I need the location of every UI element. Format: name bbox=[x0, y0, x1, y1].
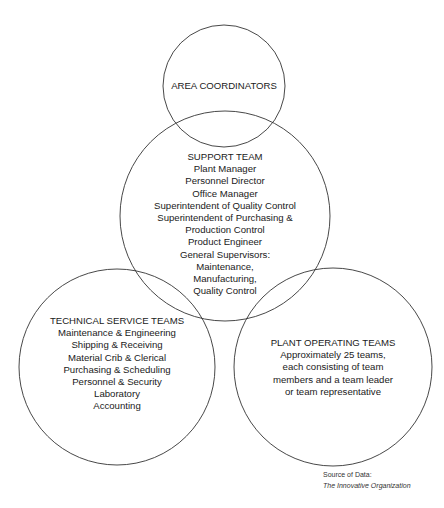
technical-service-item: Maintenance & Engineering bbox=[37, 327, 197, 339]
area-coordinators-text: AREA COORDINATORS bbox=[164, 80, 284, 92]
support-team-item: Manufacturing, bbox=[125, 273, 325, 285]
support-team-title: SUPPORT TEAM bbox=[125, 151, 325, 163]
area-coordinators-title: AREA COORDINATORS bbox=[164, 80, 284, 92]
support-team-item: Superintendent of Quality Control bbox=[125, 200, 325, 212]
support-team-item: Personnel Director bbox=[125, 175, 325, 187]
plant-operating-item: Approximately 25 teams, bbox=[253, 349, 413, 361]
source-title: The Innovative Organization bbox=[323, 480, 411, 491]
plant-operating-item: members and a team leader bbox=[253, 374, 413, 386]
source-label: Source of Data: bbox=[323, 469, 411, 480]
support-team-item: Product Engineer bbox=[125, 236, 325, 248]
support-team-item: Superintendent of Purchasing & bbox=[125, 212, 325, 224]
technical-service-item: Purchasing & Scheduling bbox=[37, 364, 197, 376]
plant-operating-teams-title: PLANT OPERATING TEAMS bbox=[253, 337, 413, 349]
technical-service-item: Personnel & Security bbox=[37, 376, 197, 388]
plant-operating-item: or team representative bbox=[253, 386, 413, 398]
support-team-item: Plant Manager bbox=[125, 163, 325, 175]
technical-service-teams-text: TECHNICAL SERVICE TEAMS Maintenance & En… bbox=[37, 315, 197, 413]
support-team-item: Quality Control bbox=[125, 285, 325, 297]
support-team-item: Maintenance, bbox=[125, 261, 325, 273]
plant-operating-teams-text: PLANT OPERATING TEAMS Approximately 25 t… bbox=[253, 337, 413, 398]
technical-service-item: Accounting bbox=[37, 400, 197, 412]
plant-operating-item: each consisting of team bbox=[253, 361, 413, 373]
source-note: Source of Data: The Innovative Organizat… bbox=[323, 469, 411, 491]
support-team-text: SUPPORT TEAM Plant Manager Personnel Dir… bbox=[125, 151, 325, 297]
technical-service-item: Laboratory bbox=[37, 388, 197, 400]
support-team-item: Office Manager bbox=[125, 188, 325, 200]
technical-service-item: Shipping & Receiving bbox=[37, 339, 197, 351]
technical-service-teams-title: TECHNICAL SERVICE TEAMS bbox=[37, 315, 197, 327]
support-team-item: General Supervisors: bbox=[125, 249, 325, 261]
support-team-item: Production Control bbox=[125, 224, 325, 236]
technical-service-item: Material Crib & Clerical bbox=[37, 352, 197, 364]
